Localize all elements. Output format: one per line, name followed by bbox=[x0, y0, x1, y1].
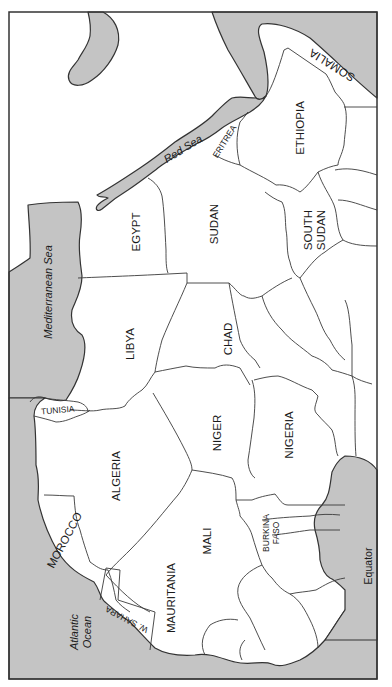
africa-map: EGYPT SUDAN SOUTH SUDAN ETHIOPIA ERITREA… bbox=[0, 0, 392, 687]
label-equator: Equator bbox=[362, 547, 374, 584]
label-algeria: ALGERIA bbox=[110, 451, 122, 501]
label-south-sudan-line1: SOUTH bbox=[302, 210, 314, 250]
label-mali: MALI bbox=[201, 528, 213, 555]
label-mauritania: MAURITANIA bbox=[165, 563, 177, 633]
label-chad: CHAD bbox=[222, 323, 234, 356]
label-libya: LIBYA bbox=[124, 328, 136, 360]
label-egypt: EGYPT bbox=[130, 213, 142, 252]
label-mediterranean-sea: Mediterranean Sea bbox=[42, 245, 54, 339]
label-burkina-faso-line1: BURKINA bbox=[261, 514, 271, 552]
label-nigeria: NIGERIA bbox=[283, 411, 295, 459]
label-sudan: SUDAN bbox=[208, 204, 220, 244]
label-burkina-faso-line2: FASO bbox=[271, 521, 281, 544]
label-ethiopia: ETHIOPIA bbox=[294, 101, 306, 155]
label-atlantic-ocean-line1: Atlantic bbox=[68, 613, 80, 651]
label-atlantic-ocean-line2: Ocean bbox=[81, 616, 93, 648]
label-south-sudan-line2: SUDAN bbox=[315, 210, 327, 250]
label-niger: NIGER bbox=[211, 415, 223, 451]
